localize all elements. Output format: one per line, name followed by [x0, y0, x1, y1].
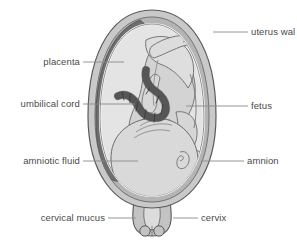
cervical-os-lobe-left [140, 226, 150, 236]
label-cervical-mucus: cervical mucus [41, 213, 105, 223]
label-amniotic-fluid: amniotic fluid [23, 156, 80, 166]
label-placenta: placenta [43, 57, 80, 67]
fetus-uterus-diagram: uterus wal fetus amnion cervix placenta … [0, 0, 297, 242]
label-fetus: fetus [251, 101, 272, 111]
label-amnion: amnion [247, 156, 279, 166]
label-cervix: cervix [201, 213, 226, 223]
cervical-os-lobe-right [154, 226, 164, 236]
label-umbilical-cord: umbilical cord [21, 99, 80, 109]
clipped-caption [8, 237, 218, 242]
label-uterus-wall: uterus wal [251, 27, 295, 37]
